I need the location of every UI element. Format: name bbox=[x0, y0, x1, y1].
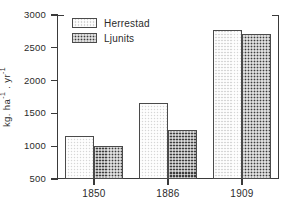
y-axis-tick-label: 3000 bbox=[24, 9, 46, 20]
frame-top-left-stub bbox=[57, 15, 64, 16]
legend-swatch-ljunits bbox=[72, 33, 97, 43]
legend-label-herrestad: Herrestad bbox=[104, 18, 150, 29]
bar-1909-herrestad bbox=[213, 30, 242, 179]
legend-item-herrestad: Herrestad bbox=[72, 17, 150, 29]
y-axis-tick bbox=[51, 47, 58, 48]
bar-1886-herrestad bbox=[139, 103, 168, 179]
bar-1850-herrestad bbox=[65, 136, 94, 179]
y-axis-tick-label: 2500 bbox=[24, 42, 46, 53]
x-axis-tick-label: 1850 bbox=[69, 188, 119, 199]
y-axis-tick bbox=[51, 113, 58, 114]
y-axis-tick bbox=[51, 14, 58, 15]
legend-label-ljunits: Ljunits bbox=[104, 33, 134, 44]
y-axis-title-exponent-1: -1 bbox=[0, 92, 6, 99]
y-axis-tick-label: 2000 bbox=[24, 75, 46, 86]
y-axis-tick bbox=[51, 146, 58, 147]
x-axis-tick bbox=[167, 179, 168, 185]
legend: HerrestadLjunits bbox=[72, 17, 150, 47]
x-axis-tick bbox=[241, 179, 242, 185]
y-axis-title-middle: . yr bbox=[1, 74, 12, 92]
bar-chart-figure: kg. ha-1 . yr-1 30002500200015001000500 … bbox=[0, 0, 295, 205]
y-axis-tick-label: 1500 bbox=[24, 107, 46, 118]
y-axis-tick-label: 1000 bbox=[24, 140, 46, 151]
x-axis-tick-label: 1886 bbox=[143, 188, 193, 199]
legend-item-ljunits: Ljunits bbox=[72, 32, 150, 44]
bar-1909-ljunits bbox=[242, 34, 271, 179]
bar-1850-ljunits bbox=[94, 146, 123, 179]
y-axis-title: kg. ha-1 . yr-1 bbox=[1, 67, 12, 127]
bar-1886-ljunits bbox=[168, 130, 197, 179]
y-axis-title-exponent-2: -1 bbox=[0, 67, 6, 74]
y-axis-tick-label: 500 bbox=[30, 173, 46, 184]
legend-swatch-herrestad bbox=[72, 18, 97, 28]
y-axis-tick bbox=[51, 80, 58, 81]
y-axis-tick bbox=[51, 178, 58, 179]
x-axis-tick bbox=[93, 179, 94, 185]
x-axis-tick-label: 1909 bbox=[217, 188, 267, 199]
y-axis-title-prefix: kg. ha bbox=[1, 99, 12, 127]
frame-right-edge bbox=[278, 15, 279, 179]
